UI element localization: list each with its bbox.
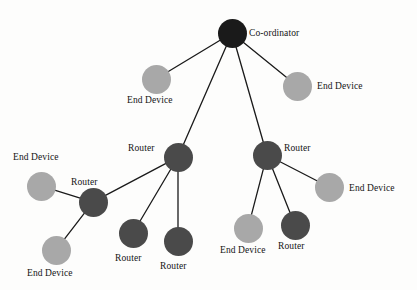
node-label-router-sub: Router xyxy=(71,177,97,188)
node-label-ed-far-left: End Device xyxy=(13,152,59,163)
node-label-ed-top-right: End Device xyxy=(317,81,363,92)
node-label-ed-top-left: End Device xyxy=(127,95,173,106)
node-label-router-left: Router xyxy=(128,143,154,154)
network-topology-diagram: Co-ordinatorEnd DeviceEnd DeviceRouterRo… xyxy=(0,0,417,290)
node-label-router-right: Router xyxy=(284,143,310,154)
node-label-ed-bot-left: End Device xyxy=(27,268,73,279)
node-label-router-bot-2: Router xyxy=(160,261,186,272)
label-layer: Co-ordinatorEnd DeviceEnd DeviceRouterRo… xyxy=(0,0,417,290)
node-label-router-bot-1: Router xyxy=(115,253,141,264)
node-label-ed-right: End Device xyxy=(349,183,395,194)
node-label-ed-bot-mid: End Device xyxy=(220,245,266,256)
node-label-router-bot-3: Router xyxy=(278,241,304,252)
node-label-coordinator: Co-ordinator xyxy=(249,28,299,39)
